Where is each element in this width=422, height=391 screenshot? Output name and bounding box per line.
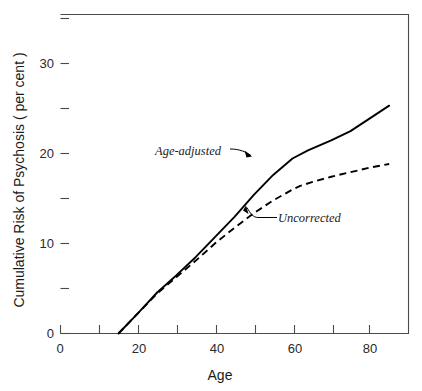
- x-tick-label-60: 60: [288, 341, 302, 356]
- y-axis-title: Cumulative Risk of Psychosis ( per cent …: [11, 52, 27, 307]
- chart-figure: 0 10 20 30 0 20 40 60 80 Age Cumulati: [0, 0, 422, 391]
- x-tick-label-80: 80: [363, 341, 377, 356]
- annotation-label-uncorrected: Uncorrected: [278, 211, 341, 225]
- y-tick-label-10: 10: [40, 236, 54, 251]
- x-tick-label-40: 40: [210, 341, 224, 356]
- y-tick-label-20: 20: [40, 146, 54, 161]
- x-axis-title: Age: [208, 367, 233, 383]
- x-tick-label-20: 20: [132, 341, 146, 356]
- y-tick-label-30: 30: [40, 56, 54, 71]
- chart-background: [0, 0, 422, 391]
- y-tick-label-0: 0: [47, 326, 54, 341]
- annotation-label-age-adjusted: Age-adjusted: [154, 144, 222, 158]
- x-tick-label-0: 0: [56, 341, 63, 356]
- cumulative-risk-of-psychosis-line-chart: 0 10 20 30 0 20 40 60 80 Age Cumulati: [0, 0, 422, 391]
